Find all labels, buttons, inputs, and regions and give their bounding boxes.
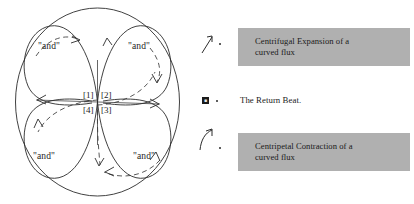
quadrant-label-top-right: "and" [128, 41, 150, 51]
quadrant-label-top-left: "and" [38, 41, 60, 51]
center-label-2: [2] [101, 90, 112, 100]
legend-dot-3 [219, 147, 221, 149]
filled-square-icon: ■ [202, 97, 209, 104]
legend-line-1a: Centrifugal Expansion of a [255, 36, 349, 46]
legend-line-1b: curved flux [255, 47, 295, 57]
legend-text-centrifugal: Centrifugal Expansion of a curved flux [255, 36, 404, 59]
center-label-4: [4] [83, 105, 94, 115]
legend-dot-2 [216, 100, 218, 102]
legend-box-centrifugal: Centrifugal Expansion of a curved flux [238, 28, 410, 66]
legend-text-return-beat: The Return Beat. [240, 95, 301, 105]
arrowhead-top-right-up [103, 38, 112, 46]
up-arrow-icon [199, 33, 215, 55]
dashed-arc-upper-right [98, 72, 156, 105]
legend-line-3a: Centripetal Contraction of a [255, 141, 353, 151]
center-label-3: [3] [101, 105, 112, 115]
center-label-1: [1] [83, 90, 94, 100]
quadrant-label-bottom-right: "and" [133, 151, 155, 161]
flux-diagram [0, 0, 200, 204]
legend-line-3b: curved flux [255, 152, 295, 162]
legend-box-centripetal: Centripetal Contraction of a curved flux [238, 133, 410, 171]
curved-up-arrow-icon [197, 128, 215, 152]
quadrant-label-bottom-left: "and" [33, 151, 55, 161]
figure-container: "and" "and" "and" "and" [1] [2] [3] [4] … [0, 0, 414, 204]
legend-dot-1 [219, 43, 221, 45]
dashed-arc-right-down [150, 48, 160, 82]
legend-text-centripetal: Centripetal Contraction of a curved flux [255, 141, 404, 164]
